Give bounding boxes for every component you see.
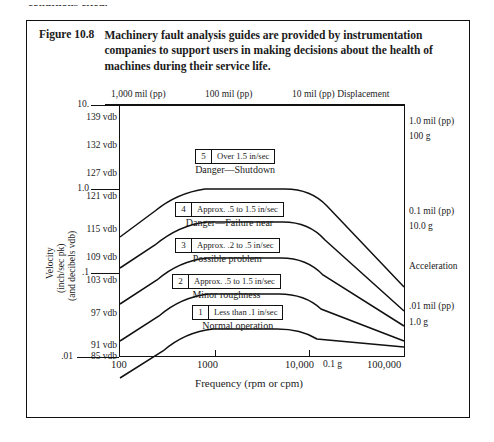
annotation-3: 3 Approx. .2 to .5 in/sec Possible probl… — [175, 238, 280, 264]
annotation-3-label: Approx. .2 to .5 in/sec — [192, 239, 279, 252]
curve-1 — [120, 329, 404, 378]
right-tick-100g: 100 g — [409, 131, 430, 141]
annotation-1-number: 1 — [193, 306, 209, 319]
figure-frame: Figure 10.8 Machinery fault analysis gui… — [26, 20, 470, 418]
annotation-5-box[interactable]: 5 Over 1.5 in/sec — [195, 149, 275, 164]
annotation-4: 4 Approx. .5 to 1.5 in/sec Danger—Failur… — [175, 202, 284, 228]
x-label-100000: 100,000 — [367, 359, 401, 370]
right-tick-1mil: 1.0 mil (pp) — [409, 116, 454, 126]
x-tick-10000 — [309, 350, 310, 357]
annotation-2-label: Approx. .5 to 1.5 in/sec — [189, 275, 280, 288]
annotation-1-box[interactable]: 1 Less than .1 in/sec — [192, 305, 283, 320]
right-tick-10g: 10.0 g — [409, 221, 433, 231]
annotation-1-sublabel: Normal operation — [192, 320, 283, 331]
x-label-10000: 10,000 — [285, 359, 314, 370]
right-tick-point01mil: .01 mil (pp) — [409, 301, 454, 311]
annotation-2-number: 2 — [173, 275, 189, 288]
x-tick-1000 — [215, 350, 216, 357]
annotation-4-sublabel: Danger—Failure near — [175, 217, 284, 228]
annotation-4-number: 4 — [176, 203, 192, 216]
right-tick-0point1mil: 0.1 mil (pp) — [409, 206, 454, 216]
annotation-5-number: 5 — [196, 150, 212, 163]
x-label-1000: 1000 — [197, 359, 218, 370]
right-axis-title: Acceleration — [409, 261, 458, 271]
annotation-3-number: 3 — [176, 239, 192, 252]
x-label-100: 100 — [111, 359, 127, 370]
annotation-5: 5 Over 1.5 in/sec Danger—Shutdown — [195, 149, 275, 175]
chart: 1,000 mil (pp) 100 mil (pp) 10 mil (pp) … — [27, 21, 471, 419]
annotation-5-sublabel: Danger—Shutdown — [195, 164, 275, 175]
annotation-3-sublabel: Possible problem — [175, 253, 280, 264]
right-tick-0point1g: 0.1 g — [323, 359, 342, 369]
annotation-4-box[interactable]: 4 Approx. .5 to 1.5 in/sec — [175, 202, 284, 217]
annotation-2-box[interactable]: 2 Approx. .5 to 1.5 in/sec — [172, 274, 281, 289]
annotation-2-sublabel: Minor roughness — [172, 289, 281, 300]
annotation-4-label: Approx. .5 to 1.5 in/sec — [192, 203, 283, 216]
annotation-2: 2 Approx. .5 to 1.5 in/sec Minor roughne… — [172, 274, 281, 300]
right-tick-1g: 1.0 g — [409, 317, 428, 327]
figure-page: conditions cited. Figure 10.8 Machinery … — [0, 0, 494, 442]
x-axis-title: Frequency (rpm or cpm) — [27, 377, 471, 389]
annotation-1-label: Less than .1 in/sec — [209, 306, 282, 319]
annotation-3-box[interactable]: 3 Approx. .2 to .5 in/sec — [175, 238, 280, 253]
annotation-1: 1 Less than .1 in/sec Normal operation — [192, 305, 283, 331]
page-cutoff-text: conditions cited. — [28, 0, 108, 8]
annotation-5-label: Over 1.5 in/sec — [212, 150, 274, 163]
